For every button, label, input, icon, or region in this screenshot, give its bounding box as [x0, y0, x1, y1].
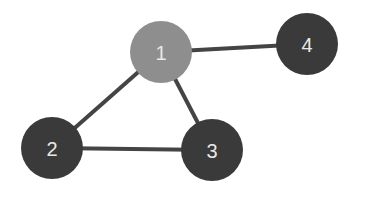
- node-label: 3: [206, 140, 217, 162]
- graph-diagram: 1234: [0, 0, 365, 198]
- node-label: 2: [46, 138, 57, 160]
- node-label: 1: [155, 42, 166, 64]
- node-1: 1: [130, 21, 192, 83]
- node-3: 3: [181, 119, 243, 181]
- node-2: 2: [21, 117, 83, 179]
- nodes: 1234: [21, 13, 338, 181]
- node-4: 4: [276, 13, 338, 75]
- node-label: 4: [301, 34, 312, 56]
